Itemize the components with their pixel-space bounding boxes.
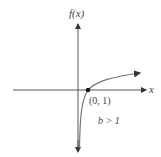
- log-curve: [80, 73, 141, 148]
- y-axis-label: f(x): [69, 7, 85, 20]
- intercept-point: [86, 88, 90, 92]
- point-label: (0, 1): [89, 95, 111, 107]
- log-function-graph: f(x) x (0, 1) b > 1: [0, 0, 161, 157]
- condition-label: b > 1: [98, 115, 120, 126]
- x-axis-label: x: [148, 83, 154, 95]
